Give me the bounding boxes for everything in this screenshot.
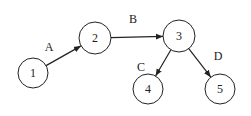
node-3-label: 3 xyxy=(176,29,182,43)
edge-label-d: D xyxy=(214,49,223,63)
node-5-label: 5 xyxy=(217,82,223,96)
edge-3-4 xyxy=(156,50,171,76)
edge-3-5 xyxy=(189,49,211,77)
node-1-label: 1 xyxy=(30,66,36,80)
nodes: 12345 xyxy=(18,20,235,104)
node-2-label: 2 xyxy=(92,31,98,45)
graph-svg: 12345 ABCD xyxy=(0,0,251,116)
node-4-label: 4 xyxy=(145,82,151,96)
edge-labels: ABCD xyxy=(45,12,223,74)
edge-label-a: A xyxy=(45,40,54,54)
edge-2-3 xyxy=(111,36,163,37)
graph-diagram: 12345 ABCD xyxy=(0,0,251,116)
edge-label-b: B xyxy=(129,12,137,26)
edge-label-c: C xyxy=(137,60,145,74)
